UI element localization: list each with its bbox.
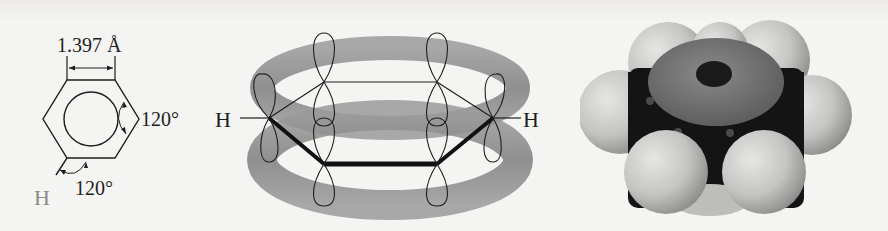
pi-orbital-panel: H H xyxy=(210,30,570,231)
pi-orbital-diagram: H H xyxy=(210,30,570,231)
disk-hole xyxy=(696,61,732,87)
space-filling-panel xyxy=(580,0,888,231)
right-hydrogen-label: H xyxy=(523,107,539,132)
hydrogen-sphere xyxy=(722,130,806,214)
benzene-hexagon-diagram: 1.397 Å 120° 120° H xyxy=(0,30,220,231)
bond-length-label: 1.397 Å xyxy=(57,34,122,56)
h-angle-label: 120° xyxy=(75,177,113,199)
aromatic-circle xyxy=(64,92,118,146)
ring-angle-label: 120° xyxy=(141,108,179,130)
hydrogen-sphere xyxy=(624,130,708,214)
space-filling-model xyxy=(580,0,888,231)
hydrogen-label: H xyxy=(34,185,50,210)
left-hydrogen-label: H xyxy=(215,107,231,132)
bond-geometry-panel: 1.397 Å 120° 120° H xyxy=(0,30,220,231)
